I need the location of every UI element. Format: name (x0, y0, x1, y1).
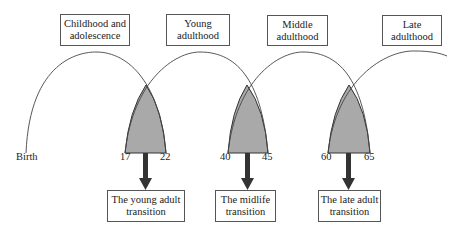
transition-overlap-1 (125, 85, 166, 153)
stage-label-line2: adolescence (61, 30, 129, 42)
transition-box-late-adult: The late adult transition (318, 190, 381, 222)
stage-label-line1: Middle (268, 19, 327, 31)
transition-label-line1: The midlife (216, 194, 275, 206)
stage-box-middle-adulthood: Middle adulthood (267, 15, 328, 46)
stage-box-childhood: Childhood and adolescence (60, 14, 130, 46)
birth-label: Birth (16, 151, 38, 162)
stage-box-young-adulthood: Young adulthood (166, 14, 230, 46)
age-label-65: 65 (364, 151, 375, 162)
transition-overlap-3 (328, 85, 370, 153)
age-label-22: 22 (160, 151, 171, 162)
transition-overlap-2 (228, 85, 268, 153)
age-label-17: 17 (120, 151, 131, 162)
stage-label-line2: adulthood (167, 30, 229, 42)
transition-label-line2: transition (108, 206, 184, 218)
transition-label-line2: transition (216, 206, 275, 218)
stage-label-line1: Young (167, 18, 229, 30)
arrow-1 (139, 153, 152, 190)
arrow-3 (342, 153, 355, 190)
stage-label-line1: Late (383, 19, 441, 31)
stage-box-late-adulthood: Late adulthood (382, 15, 442, 46)
transition-label-line1: The late adult (319, 194, 380, 206)
stage-label-line2: adulthood (268, 31, 327, 43)
age-label-60: 60 (321, 151, 332, 162)
stage-label-line1: Childhood and (61, 18, 129, 30)
transition-box-midlife: The midlife transition (215, 190, 276, 222)
transition-label-line2: transition (319, 206, 380, 218)
transition-box-young-adult: The young adult transition (107, 190, 185, 222)
transition-label-line1: The young adult (108, 194, 184, 206)
age-label-45: 45 (262, 151, 273, 162)
age-label-40: 40 (220, 151, 231, 162)
arrow-2 (241, 153, 254, 190)
stage-label-line2: adulthood (383, 31, 441, 43)
